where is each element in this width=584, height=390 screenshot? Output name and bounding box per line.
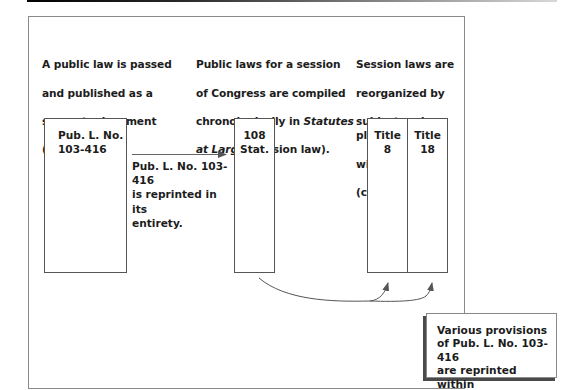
curved-arrow-icon [259, 278, 432, 301]
provisions-callout: Various provisions of Pub. L. No. 103-41… [426, 313, 557, 378]
